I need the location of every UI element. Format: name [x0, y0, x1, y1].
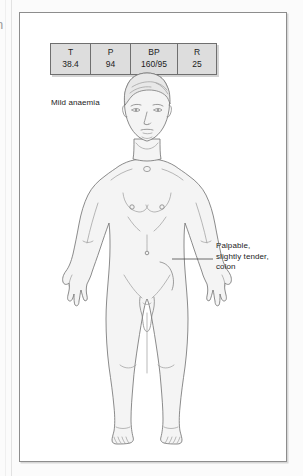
hair — [124, 73, 170, 105]
arm-right-shade — [196, 203, 207, 243]
inguinal-right — [152, 275, 170, 298]
vitals-value-bp: 160/95 — [131, 58, 177, 70]
pectoral-left — [123, 193, 148, 212]
elbow-left — [83, 241, 93, 243]
eyebrow-right — [153, 104, 163, 106]
vitals-value-r: 25 — [178, 58, 216, 70]
toe-line-left-3 — [122, 437, 125, 443]
vitals-cell-blood-pressure: BP 160/95 — [130, 43, 177, 75]
neck — [133, 139, 161, 161]
toe-line-left-4 — [126, 437, 129, 443]
neck-shadow — [136, 143, 158, 149]
nipple-left — [130, 205, 134, 209]
ear-right — [167, 105, 171, 117]
nose — [144, 112, 149, 125]
hair-line-1 — [132, 82, 167, 90]
toe-line-right-1 — [177, 437, 180, 443]
vitals-value-p: 94 — [91, 58, 130, 70]
hand-left-thumb-line — [69, 275, 72, 286]
callout-line-3: colon — [216, 262, 269, 273]
eyebrow-left — [131, 104, 141, 106]
toe-line-left-1 — [114, 437, 117, 443]
vitals-cell-temperature: T 38.4 — [50, 43, 90, 75]
figure-panel: T 38.4 P 94 BP 160/95 R 25 Mild anaemia — [19, 12, 287, 462]
lower-lip — [143, 133, 152, 134]
hair-line-3 — [156, 83, 168, 94]
inguinal-left — [124, 275, 142, 298]
rib-left — [128, 217, 140, 231]
nipple-right — [160, 205, 164, 209]
colon-callout-annotation: Palpable, slightly tender, colon — [216, 241, 269, 273]
callout-line-2: slightly tender, — [216, 252, 269, 263]
callout-line-1: Palpable, — [216, 241, 269, 252]
elbow-right — [201, 241, 211, 243]
toe-line-right-4 — [165, 437, 168, 443]
mouth — [141, 129, 153, 130]
ankle-right — [164, 427, 178, 429]
genital-outline — [140, 297, 155, 332]
toe-line-left-2 — [118, 437, 121, 443]
eye-left — [132, 109, 140, 112]
vitals-value-t: 38.4 — [51, 58, 90, 70]
navel — [145, 251, 149, 255]
vitals-label-p: P — [91, 47, 130, 58]
toe-line-right-2 — [173, 437, 176, 443]
anaemia-annotation: Mild anaemia — [51, 98, 100, 107]
clavicle-left — [111, 169, 132, 180]
toe-line-right-3 — [169, 437, 172, 443]
hand-right-thumb-line — [222, 275, 225, 286]
genital-detail — [143, 303, 151, 305]
knee-right — [158, 365, 174, 368]
pectoral-right — [146, 193, 171, 212]
vitals-label-bp: BP — [131, 47, 177, 58]
eye-right — [154, 109, 162, 112]
body-outline — [63, 159, 232, 444]
vitals-cell-respiratory-rate: R 25 — [177, 43, 217, 75]
vitals-label-r: R — [178, 47, 216, 58]
knee-left — [120, 365, 136, 368]
clipped-margin-glyph: n — [0, 18, 3, 31]
head — [124, 73, 169, 141]
page-margin-rule-outer — [5, 0, 6, 476]
suprasternal-notch — [144, 166, 151, 171]
pupil-left — [135, 109, 137, 111]
ear-left — [123, 105, 127, 117]
rib-right — [154, 217, 166, 231]
vitals-label-t: T — [51, 47, 90, 58]
vital-signs-table: T 38.4 P 94 BP 160/95 R 25 — [50, 43, 217, 75]
hair-line-2 — [130, 87, 151, 93]
arm-left-shade — [87, 203, 98, 243]
clavicle-right — [162, 169, 183, 180]
vitals-cell-pulse: P 94 — [90, 43, 130, 75]
ankle-left — [116, 427, 130, 429]
pupil-right — [157, 109, 159, 111]
page-margin-rule — [11, 0, 12, 476]
palpable-colon-marking — [160, 262, 174, 290]
body-diagram — [20, 13, 288, 463]
nose-base — [144, 123, 151, 125]
chin-line — [142, 137, 152, 139]
